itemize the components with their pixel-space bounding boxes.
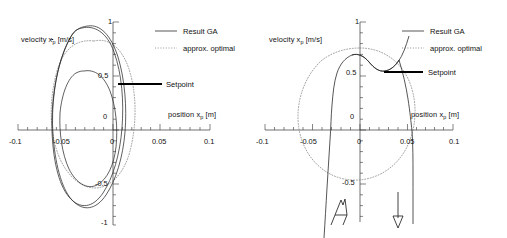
- right-ytick-label-0: 0: [350, 112, 354, 121]
- figure-two-phase-plane-plots: velocity xp [m/s] position xp [m] -0.1 -…: [0, 0, 507, 238]
- right-axes: [265, 22, 453, 222]
- left-xtick-label-2: 0: [110, 137, 114, 146]
- left-legend-label-result-ga: Result GA: [183, 27, 218, 36]
- left-ytick-label-1: 1: [108, 17, 112, 26]
- right-x-ticks: [265, 124, 453, 130]
- right-ytick-label-neg05: -0.5: [342, 178, 355, 187]
- right-ytick-label-05: 0.5: [346, 68, 356, 77]
- left-ytick-label-05: 0.5: [98, 71, 108, 80]
- right-direction-arrow-up: [331, 199, 347, 225]
- right-xtick-label-2: 0: [357, 137, 361, 146]
- right-setpoint-label: Setpoint: [428, 68, 456, 77]
- left-y-axis-label: velocity xp [m/s]: [21, 35, 74, 45]
- left-legend-label-approx-optimal: approx. optimal: [183, 44, 235, 53]
- left-ytick-label-neg1: -1: [101, 218, 108, 227]
- right-y-axis-label: velocity xp [m/s]: [269, 35, 322, 45]
- right-legend-label-approx-optimal: approx. optimal: [430, 44, 482, 53]
- left-ytick-label-neg05: -0.5: [95, 179, 108, 188]
- plot-panel-left: velocity xp [m/s] position xp [m] -0.1 -…: [0, 0, 253, 238]
- right-xtick-label-0: -0.1: [256, 137, 269, 146]
- left-xtick-label-0: -0.1: [9, 137, 22, 146]
- right-direction-arrow-down: [393, 192, 403, 228]
- right-result-ga-trajectory: [324, 36, 409, 238]
- left-x-axis-label: position xp [m]: [168, 110, 216, 120]
- left-xtick-label-3: 0.05: [152, 137, 166, 146]
- right-x-axis-label: position xp [m]: [411, 110, 459, 120]
- right-ytick-label-1: 1: [355, 17, 359, 26]
- plot-panel-right: velocity xp [m/s] position xp [m] -0.1 -…: [253, 0, 506, 238]
- right-xtick-label-1: -0.05: [300, 137, 317, 146]
- left-xtick-label-1: -0.05: [53, 137, 70, 146]
- right-xtick-label-4: 0.1: [449, 137, 459, 146]
- right-legend-label-result-ga: Result GA: [430, 27, 465, 36]
- left-result-ga-inner-orbit: [60, 71, 117, 187]
- left-ytick-label-0: 0: [103, 112, 107, 121]
- left-setpoint-label: Setpoint: [166, 80, 194, 89]
- right-y-ticks: [360, 22, 366, 216]
- left-xtick-label-4: 0.1: [204, 137, 214, 146]
- right-approx-optimal-curve: [298, 48, 415, 180]
- right-xtick-label-3: 0.05: [400, 137, 414, 146]
- left-x-ticks: [18, 124, 210, 130]
